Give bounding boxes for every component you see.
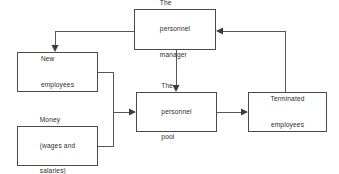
node-new-employees-label: New employees xyxy=(41,38,74,107)
edge-new-employees-to-pool xyxy=(98,72,132,112)
node-terminated-employees[interactable]: Terminated employees xyxy=(248,92,327,132)
node-personnel-manager-line-3: manager xyxy=(160,51,190,60)
node-terminated-employees-line-2: employees xyxy=(270,121,304,130)
node-personnel-manager[interactable]: The personnel manager xyxy=(134,9,216,50)
node-new-employees-line-1: New xyxy=(41,55,74,64)
node-personnel-manager-line-2: personnel xyxy=(160,25,190,34)
node-personnel-manager-line-1: The xyxy=(160,0,190,8)
node-personnel-pool-line-2: personnel xyxy=(161,108,191,117)
arrowhead-left-manager xyxy=(216,28,223,35)
arrowhead-right-pool xyxy=(129,109,136,116)
node-new-employees-line-2: employees xyxy=(41,81,74,90)
node-personnel-pool-label: The personnel pool xyxy=(161,65,191,160)
node-terminated-employees-line-1: Terminated xyxy=(270,95,304,104)
node-personnel-pool[interactable]: The personnel pool xyxy=(136,92,217,132)
node-money[interactable]: Money (wages and salaries) xyxy=(17,126,98,166)
node-money-line-2: (wages and xyxy=(40,142,76,151)
node-money-line-1: Money xyxy=(40,116,76,125)
diagram-canvas: The personnel manager New employees Mone… xyxy=(0,0,339,174)
node-personnel-pool-line-1: The xyxy=(161,82,191,91)
node-new-employees[interactable]: New employees xyxy=(17,52,98,92)
edge-money-to-pool xyxy=(98,112,113,146)
node-money-label: Money (wages and salaries) xyxy=(40,99,76,174)
node-money-line-3: salaries) xyxy=(40,167,76,174)
node-personnel-pool-line-3: pool xyxy=(161,133,191,142)
arrowhead-right-terminated xyxy=(241,109,248,116)
node-terminated-employees-label: Terminated employees xyxy=(270,78,304,147)
